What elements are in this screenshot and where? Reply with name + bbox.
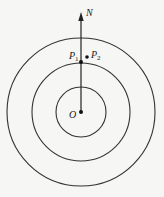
label-north: N bbox=[85, 7, 94, 18]
label-origin: O bbox=[69, 109, 76, 120]
background bbox=[0, 0, 164, 197]
origin-point bbox=[79, 110, 83, 114]
point-p2 bbox=[85, 55, 89, 59]
point-p1 bbox=[79, 60, 83, 64]
concentric-circles-diagram: N O P1 P2 bbox=[0, 0, 164, 197]
